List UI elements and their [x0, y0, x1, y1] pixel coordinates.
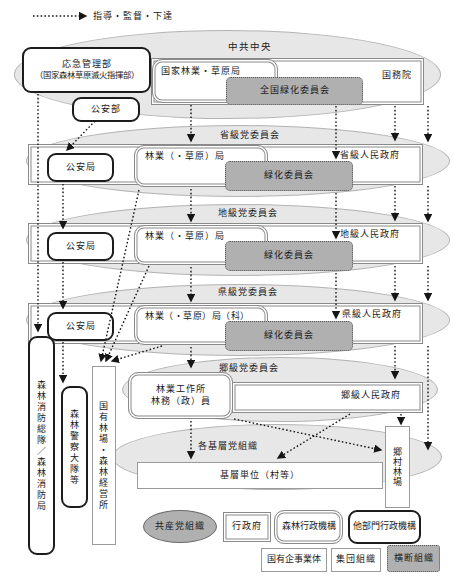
township-government-label: 郷級人民政府	[330, 390, 412, 401]
legend-collective-organization: 集団組織	[331, 548, 381, 572]
prefecture-government-label: 地級人民政府	[330, 229, 410, 240]
national-greening-committee-box: 全国緑化委員会	[226, 77, 363, 105]
legend-forest-admin: 森林行政機構	[274, 510, 343, 544]
province-forestry-label: 林業（・草原）局	[145, 151, 263, 162]
legend-other-admin: 他部門行政機構	[348, 510, 421, 544]
forestry-workstation-line1: 林業工作所	[156, 384, 206, 395]
province-public-security-box: 公安局	[47, 153, 114, 182]
village-forest-farm-box: 郷村林場	[385, 426, 410, 508]
legend-cross-organization: 横断組織	[387, 545, 440, 572]
county-party-label: 県級党委員会	[190, 287, 305, 298]
forestry-workstation-box: 林業工作所 林務（政）員	[128, 372, 233, 419]
province-government-label: 省級人民政府	[330, 150, 410, 161]
state-council-label: 国務院	[375, 70, 419, 81]
township-party-label: 郷級党委員会	[191, 363, 306, 374]
base-unit-box: 基層単位（村等）	[137, 462, 383, 489]
grassroots-party-label: 各基層党組織	[175, 441, 280, 452]
ministry-public-security-box: 公安部	[72, 97, 140, 122]
county-forestry-label: 林業（・草原）局（科）	[145, 311, 267, 322]
emergency-ministry-box: 応急管理部 （国家森林草原滅火指揮部）	[22, 47, 151, 93]
state-forest-farm-box: 国有林場・森林経営所	[92, 366, 116, 545]
forest-police-box: 森林警察大隊等	[61, 386, 88, 508]
central-party-label: 中共中央	[195, 41, 305, 53]
legend-state-enterprise: 国有企事業体	[261, 548, 327, 572]
prefecture-greening-box: 緑化委員会	[225, 241, 353, 271]
prefecture-party-label: 地級党委員会	[190, 208, 305, 219]
national-forestry-bureau-label: 国家林業・草原局	[161, 66, 273, 77]
county-government-label: 県級人民政府	[332, 309, 412, 320]
legend-party-organization: 共産党組織	[143, 510, 217, 543]
legend-government: 行政府	[223, 512, 271, 542]
org-chart: 指導・監督・下達 中共中央 省級党委員会 地級党委員会 県級党委員会 郷級党委員…	[0, 0, 453, 586]
county-greening-box: 緑化委員会	[225, 321, 353, 351]
emergency-ministry-line2: （国家森林草原滅火指揮部）	[35, 70, 139, 80]
prefecture-forestry-label: 林業（・草原）局	[145, 231, 263, 242]
arrow-legend-label: 指導・監督・下達	[93, 9, 173, 22]
emergency-ministry-line1: 応急管理部	[62, 59, 112, 70]
forestry-workstation-line2: 林務（政）員	[151, 396, 211, 407]
county-public-security-box: 公安局	[47, 312, 114, 341]
province-greening-box: 緑化委員会	[225, 161, 353, 191]
prefecture-public-security-box: 公安局	[47, 232, 114, 261]
province-party-label: 省級党委員会	[192, 130, 307, 141]
forest-fire-brigade-box: 森林消防総隊／森林消防局	[28, 336, 55, 555]
